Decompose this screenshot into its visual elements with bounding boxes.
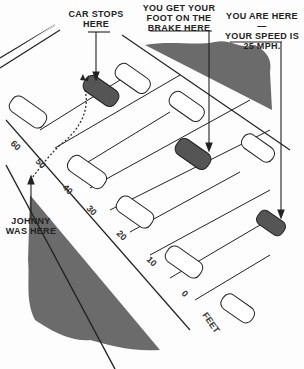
tick-0: 0: [180, 288, 191, 299]
road-edge-near: [6, 165, 115, 369]
tick-10: 10: [145, 254, 159, 268]
tick-60: 60: [9, 138, 23, 152]
label-you-are-here: YOU ARE HERE— YOUR SPEED IS 25 MPH.: [222, 11, 302, 51]
tick-30: 30: [85, 203, 99, 217]
car-braking: [172, 136, 213, 173]
label-car-stops: CAR STOPS HERE: [66, 9, 126, 29]
label-johnny-was-here: JOHNNY WAS HERE: [2, 216, 60, 236]
crash-icon: [80, 74, 89, 81]
braking-distance-illustration: 60 50 40 30 20 10 0 FEET CAR STOPS HERE …: [0, 0, 304, 369]
arrow-brake: [206, 143, 212, 151]
road-scene: 60 50 40 30 20 10 0 FEET: [0, 0, 304, 369]
tick-20: 20: [115, 228, 129, 242]
tick-50: 50: [34, 156, 48, 170]
arrow-johnny: [28, 176, 34, 184]
label-foot-on-brake: YOU GET YOUR FOOT ON THE BRAKE HERE: [142, 3, 216, 33]
arrow-you-here: [278, 210, 284, 218]
unit-feet: FEET: [200, 310, 222, 335]
